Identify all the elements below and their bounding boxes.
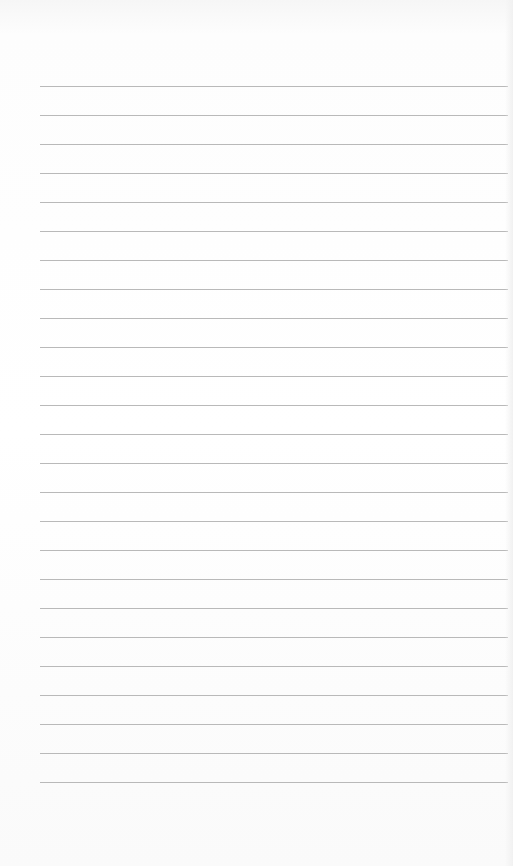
ruled-line	[40, 753, 508, 754]
ruled-lines	[40, 0, 508, 866]
ruled-line	[40, 695, 508, 696]
ruled-line	[40, 550, 508, 551]
ruled-line	[40, 579, 508, 580]
ruled-line	[40, 289, 508, 290]
ruled-line	[40, 434, 508, 435]
ruled-line	[40, 202, 508, 203]
lined-paper-page	[0, 0, 513, 866]
ruled-line	[40, 115, 508, 116]
page-edge-shadow	[505, 0, 513, 866]
ruled-line	[40, 376, 508, 377]
ruled-line	[40, 173, 508, 174]
ruled-line	[40, 405, 508, 406]
ruled-line	[40, 666, 508, 667]
ruled-line	[40, 724, 508, 725]
ruled-line	[40, 463, 508, 464]
ruled-line	[40, 347, 508, 348]
ruled-line	[40, 521, 508, 522]
ruled-line	[40, 637, 508, 638]
ruled-line	[40, 608, 508, 609]
ruled-line	[40, 231, 508, 232]
ruled-line	[40, 782, 508, 783]
ruled-line	[40, 86, 508, 87]
ruled-line	[40, 144, 508, 145]
ruled-line	[40, 492, 508, 493]
ruled-line	[40, 260, 508, 261]
ruled-line	[40, 318, 508, 319]
